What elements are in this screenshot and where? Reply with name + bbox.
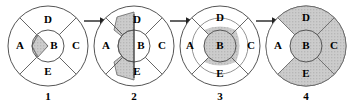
panel-number: 1 xyxy=(4,90,92,102)
panel-2-graphic: D A B C E xyxy=(90,0,178,92)
region-label-E: E xyxy=(302,67,309,79)
panel-3: D A B C E 3 xyxy=(176,0,264,112)
panel-number: 4 xyxy=(262,90,350,102)
region-label-A: A xyxy=(102,39,110,51)
region-label-A: A xyxy=(16,39,24,51)
region-label-E: E xyxy=(216,67,223,79)
region-label-B: B xyxy=(137,39,145,51)
region-label-D: D xyxy=(302,11,310,23)
region-label-D: D xyxy=(133,13,141,25)
panel-4-graphic: D A B C E xyxy=(262,0,350,92)
region-label-D: D xyxy=(216,11,224,23)
region-label-C: C xyxy=(158,39,166,51)
panel-1-graphic: D A B C E xyxy=(4,0,92,92)
panel-4: D A B C E 4 xyxy=(262,0,350,112)
region-label-C: C xyxy=(330,39,338,51)
figure-stage: D A B C E 1 xyxy=(0,0,351,112)
region-label-B: B xyxy=(302,39,310,51)
panel-1: D A B C E 1 xyxy=(4,0,92,112)
region-label-E: E xyxy=(44,65,51,77)
panel-2: D A B C E 2 xyxy=(90,0,178,112)
region-label-D: D xyxy=(44,13,52,25)
region-label-B: B xyxy=(216,39,224,51)
panel-number: 3 xyxy=(176,90,264,102)
region-label-A: A xyxy=(186,39,194,51)
region-label-E: E xyxy=(133,65,140,77)
region-label-A: A xyxy=(274,39,282,51)
panel-number: 2 xyxy=(90,90,178,102)
panel-3-graphic: D A B C E xyxy=(176,0,264,92)
region-label-C: C xyxy=(247,39,255,51)
region-label-B: B xyxy=(50,39,58,51)
region-label-C: C xyxy=(72,39,80,51)
